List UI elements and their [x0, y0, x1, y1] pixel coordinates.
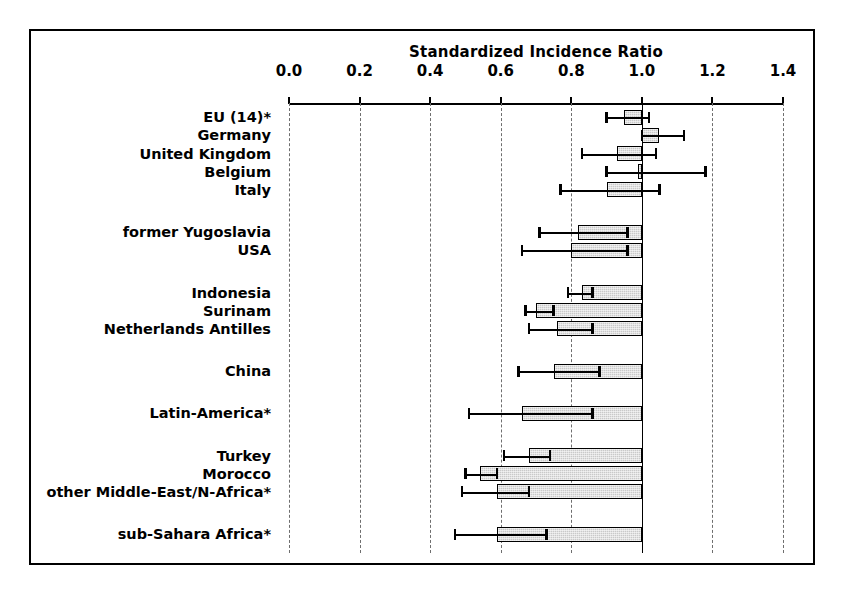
- error-cap-low: [461, 486, 464, 497]
- y-axis-category-labels: EU (14)*GermanyUnited KingdomBelgiumItal…: [0, 103, 281, 553]
- error-cap-low: [641, 130, 644, 141]
- y-label-10: China: [225, 363, 271, 379]
- y-label-9: Netherlands Antilles: [104, 321, 271, 337]
- x-tick-label-0: 0.0: [276, 62, 303, 80]
- y-label-12: Turkey: [217, 448, 271, 464]
- error-cap-low: [605, 112, 608, 123]
- bar: [480, 466, 642, 481]
- error-cap-high: [598, 366, 601, 377]
- error-cap-low: [503, 450, 506, 461]
- error-bar: [529, 329, 593, 331]
- error-cap-high: [626, 245, 629, 256]
- error-bar: [561, 190, 660, 192]
- gridline-7: [783, 103, 784, 553]
- error-cap-high: [591, 408, 594, 419]
- error-cap-low: [581, 148, 584, 159]
- y-label-15: sub-Sahara Africa*: [118, 526, 271, 542]
- y-label-14: other Middle-East/N-Africa*: [46, 484, 271, 500]
- gridline-0: [289, 103, 290, 553]
- error-bar: [607, 172, 706, 174]
- x-tick-label-6: 1.2: [699, 62, 726, 80]
- y-label-1: Germany: [197, 127, 271, 143]
- error-bar: [582, 154, 656, 156]
- error-cap-low: [464, 468, 467, 479]
- plot-area: [289, 103, 783, 553]
- error-cap-high: [591, 287, 594, 298]
- error-cap-high: [552, 305, 555, 316]
- y-label-6: USA: [238, 242, 271, 258]
- x-tick-label-5: 1.0: [629, 62, 656, 80]
- x-tick-label-2: 0.4: [417, 62, 444, 80]
- error-cap-low: [528, 323, 531, 334]
- error-cap-high: [704, 166, 707, 177]
- error-bar: [465, 474, 497, 476]
- x-tick-label-1: 0.2: [346, 62, 373, 80]
- error-cap-low: [524, 305, 527, 316]
- error-cap-low: [468, 408, 471, 419]
- error-bar: [455, 534, 547, 536]
- y-label-8: Surinam: [203, 303, 271, 319]
- y-label-13: Morocco: [202, 466, 271, 482]
- error-cap-high: [683, 130, 686, 141]
- error-cap-low: [605, 166, 608, 177]
- error-bar: [540, 232, 628, 234]
- error-bar: [568, 293, 593, 295]
- error-cap-high: [626, 227, 629, 238]
- error-bar: [504, 456, 550, 458]
- x-axis-tick-labels: 0.00.20.40.60.81.01.21.4: [0, 62, 848, 82]
- x-tick-label-3: 0.6: [487, 62, 514, 80]
- error-cap-high: [655, 148, 658, 159]
- y-label-5: former Yugoslavia: [123, 224, 271, 240]
- error-cap-low: [559, 184, 562, 195]
- error-cap-high: [549, 450, 552, 461]
- error-bar: [469, 413, 593, 415]
- error-bar: [642, 135, 684, 137]
- gridline-1: [360, 103, 361, 553]
- error-bar: [518, 371, 599, 373]
- error-cap-low: [538, 227, 541, 238]
- error-bar: [525, 311, 553, 313]
- error-bar: [462, 492, 529, 494]
- chart-page: Standardized Incidence Ratio 0.00.20.40.…: [0, 0, 848, 596]
- chart-title: Standardized Incidence Ratio: [289, 43, 783, 61]
- error-bar: [522, 250, 628, 252]
- error-bar: [607, 117, 649, 119]
- gridline-2: [430, 103, 431, 553]
- error-cap-high: [591, 323, 594, 334]
- error-cap-high: [545, 529, 548, 540]
- y-label-2: United Kingdom: [139, 146, 271, 162]
- error-cap-low: [454, 529, 457, 540]
- y-label-4: Italy: [234, 182, 271, 198]
- x-tick-label-4: 0.8: [558, 62, 585, 80]
- error-cap-high: [658, 184, 661, 195]
- error-cap-low: [521, 245, 524, 256]
- y-label-3: Belgium: [204, 164, 271, 180]
- error-cap-high: [496, 468, 499, 479]
- error-cap-low: [567, 287, 570, 298]
- error-cap-low: [517, 366, 520, 377]
- y-label-11: Latin-America*: [149, 405, 271, 421]
- y-label-0: EU (14)*: [203, 109, 271, 125]
- gridline-6: [712, 103, 713, 553]
- error-cap-high: [648, 112, 651, 123]
- x-tick-label-7: 1.4: [770, 62, 797, 80]
- error-cap-high: [528, 486, 531, 497]
- y-label-7: Indonesia: [191, 285, 271, 301]
- reference-line: [642, 103, 643, 553]
